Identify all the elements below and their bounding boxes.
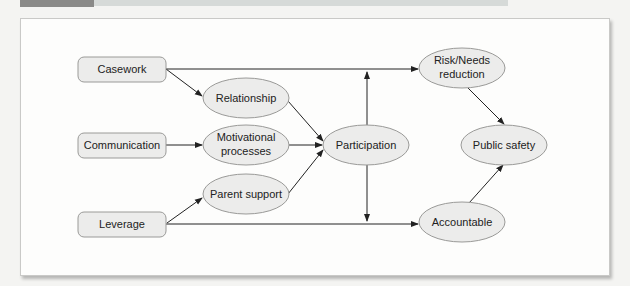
svg-text:Relationship: Relationship [216,92,277,104]
svg-text:Motivational: Motivational [217,131,276,143]
node-parent-support: Parent support [203,174,289,214]
svg-text:Casework: Casework [98,63,147,75]
edge-casework-relationship [166,69,202,96]
edge-leverage-parent [167,198,202,223]
node-casework: Casework [78,57,166,82]
edge-accountable-publicsafety [469,165,503,203]
svg-text:Leverage: Leverage [99,218,145,230]
node-relationship: Relationship [203,78,289,118]
svg-text:reduction: reduction [439,68,484,80]
svg-text:Risk/Needs: Risk/Needs [434,54,491,66]
node-risk-needs-reduction: Risk/Needs reduction [419,48,505,88]
flow-diagram: Casework Communication Leverage Relation… [0,0,630,286]
svg-text:Accountable: Accountable [432,216,493,228]
svg-text:Parent support: Parent support [210,188,282,200]
svg-text:Public safety: Public safety [473,139,536,151]
node-public-safety: Public safety [461,125,547,165]
node-accountable: Accountable [419,202,505,242]
svg-text:Participation: Participation [336,139,397,151]
edge-risk-publicsafety [468,88,504,124]
edge-parent-participation [288,150,323,194]
edge-relationship-participation [288,101,323,141]
node-participation: Participation [323,125,409,165]
svg-text:processes: processes [221,145,272,157]
node-leverage: Leverage [78,212,166,237]
node-motivational-processes: Motivational processes [203,125,289,165]
svg-text:Communication: Communication [84,139,160,151]
node-communication: Communication [78,133,166,158]
